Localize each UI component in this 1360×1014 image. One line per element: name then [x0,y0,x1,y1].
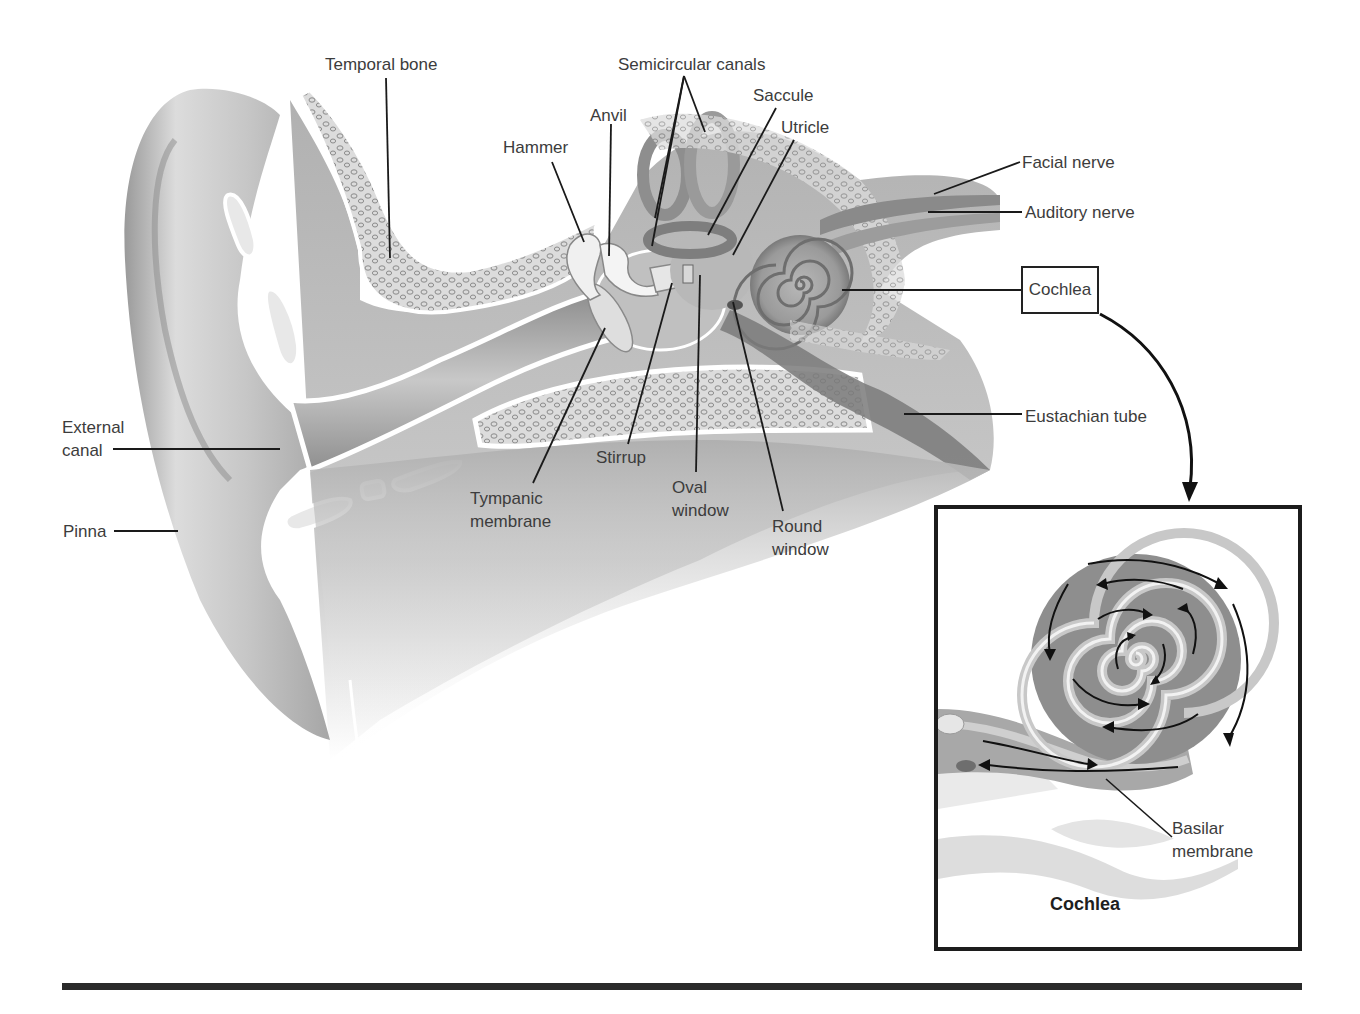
label-facial-nerve: Facial nerve [1022,151,1115,174]
label-saccule: Saccule [753,84,813,107]
label-temporal-bone: Temporal bone [325,53,437,76]
label-external-canal-line1: External [62,416,124,439]
label-pinna: Pinna [63,520,106,543]
label-hammer: Hammer [503,136,568,159]
label-oval-window: Oval window [672,476,729,522]
label-cochlea-box: Cochlea [1021,266,1099,314]
label-cochlea: Cochlea [1029,280,1091,300]
label-tympanic-line1: Tympanic [470,487,551,510]
label-basilar-membrane: Basilar membrane [1172,817,1253,863]
label-oval-line1: Oval [672,476,729,499]
label-eustachian-tube: Eustachian tube [1025,405,1147,428]
label-oval-line2: window [672,499,729,522]
label-external-canal-line2: canal [62,439,124,462]
cochlea-inset: Basilar membrane [934,505,1302,951]
label-stirrup: Stirrup [596,446,646,469]
label-auditory-nerve: Auditory nerve [1025,201,1135,224]
label-external-canal: External canal [62,416,124,462]
footer-divider [62,983,1302,990]
inset-title: Cochlea [1050,894,1120,915]
label-tympanic-line2: membrane [470,510,551,533]
label-tympanic-membrane: Tympanic membrane [470,487,551,533]
label-anvil: Anvil [590,104,627,127]
label-semicircular-canals: Semicircular canals [618,53,765,76]
label-basilar-line2: membrane [1172,840,1253,863]
label-round-line1: Round [772,515,829,538]
label-round-window: Round window [772,515,829,561]
label-round-line2: window [772,538,829,561]
label-basilar-line1: Basilar [1172,817,1253,840]
label-utricle: Utricle [781,116,829,139]
cochlea-spiral-illustration [938,509,1298,947]
ear-anatomy-figure: Temporal bone Semicircular canals Saccul… [0,0,1360,1014]
